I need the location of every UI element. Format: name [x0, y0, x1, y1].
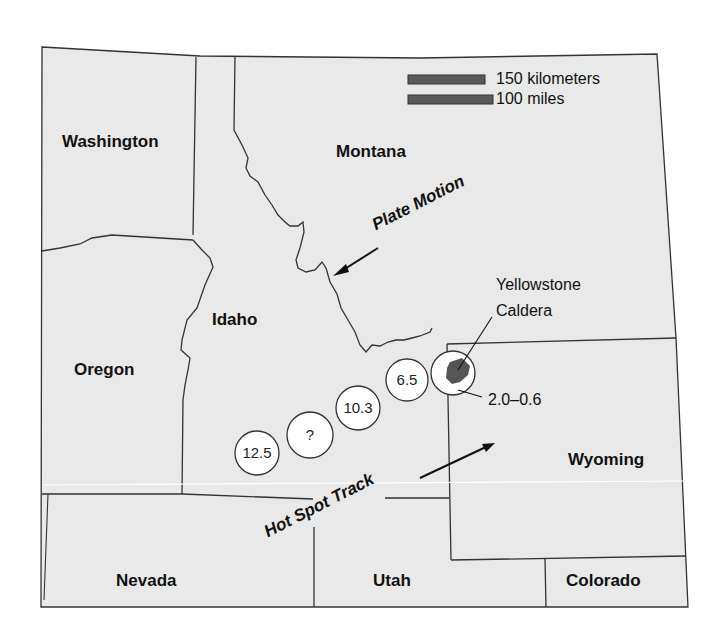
state-label-idaho: Idaho [212, 310, 257, 330]
state-label-colorado: Colorado [566, 571, 641, 591]
hotspot-age-10-3: 10.3 [336, 386, 380, 430]
scale-bar-km [408, 75, 485, 84]
state-label-wyoming: Wyoming [568, 450, 644, 470]
yellowstone-age-label: 2.0–0.6 [488, 391, 541, 409]
yellowstone-label-line2: Caldera [496, 302, 552, 320]
hotspot-map [0, 0, 713, 635]
scale-label-km: 150 kilometers [496, 70, 600, 88]
state-label-utah: Utah [373, 571, 411, 591]
hotspot-age-12-5: 12.5 [235, 431, 279, 475]
hotspot-age-6-5: 6.5 [385, 358, 429, 402]
state-label-nevada: Nevada [116, 571, 176, 591]
hotspot-age-unknown: ? [288, 413, 332, 457]
state-label-montana: Montana [336, 142, 406, 162]
state-label-oregon: Oregon [74, 360, 134, 380]
scale-bar-mi [408, 95, 493, 104]
state-label-washington: Washington [62, 132, 159, 152]
map-land [41, 47, 688, 607]
yellowstone-label-line1: Yellowstone [496, 276, 581, 294]
scale-label-miles: 100 miles [496, 90, 564, 108]
